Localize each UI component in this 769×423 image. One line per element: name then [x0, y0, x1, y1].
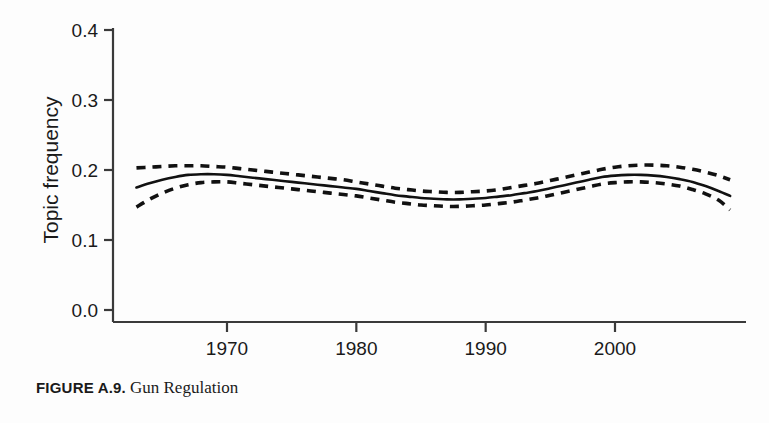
x-axis-tick-label: 1980 [335, 338, 377, 359]
x-axis-ticks [227, 322, 615, 332]
y-axis-tick-label: 0.1 [72, 230, 98, 251]
y-axis-tick-label: 0.3 [72, 90, 98, 111]
y-axis-tick-labels: 0.00.10.20.30.4 [72, 20, 99, 321]
estimate-line [136, 174, 730, 199]
y-axis-tick-label: 0.4 [72, 20, 99, 41]
y-axis-title: Topic frequency [39, 96, 62, 244]
caption-figure-number: FIGURE A.9. [36, 379, 126, 396]
y-axis-ticks [104, 30, 113, 310]
upper-confidence-band [136, 165, 730, 192]
x-axis-tick-label: 1970 [206, 338, 248, 359]
y-axis-tick-label: 0.0 [72, 300, 98, 321]
y-axis-tick-label: 0.2 [72, 160, 98, 181]
x-axis-tick-label: 2000 [594, 338, 636, 359]
figure-caption: FIGURE A.9.Gun Regulation [36, 379, 238, 396]
figure-container: 0.00.10.20.30.4 1970198019902000 Topic f… [0, 0, 769, 423]
caption-title: Gun Regulation [130, 378, 238, 397]
x-axis-tick-labels: 1970198019902000 [206, 338, 636, 359]
x-axis-tick-label: 1990 [465, 338, 507, 359]
chart-canvas: 0.00.10.20.30.4 1970198019902000 Topic f… [0, 0, 769, 423]
lower-confidence-band [136, 182, 730, 210]
